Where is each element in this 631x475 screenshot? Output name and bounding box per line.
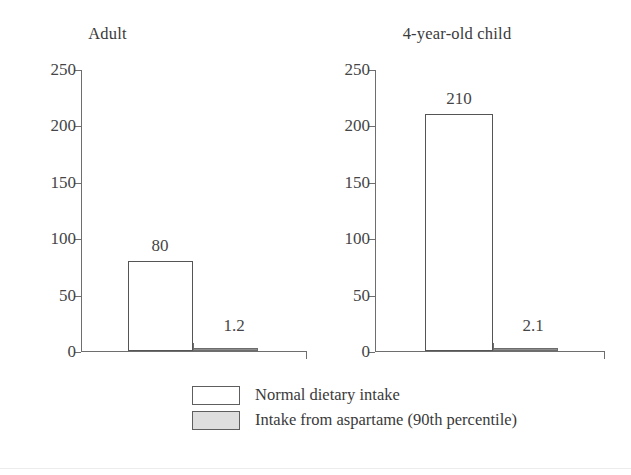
y-tick-label-200: 200 <box>345 116 371 136</box>
x-axis-line <box>81 351 307 352</box>
page-bottom-rule <box>0 468 631 469</box>
y-tick-label-50: 50 <box>353 286 370 306</box>
y-tick-label-250: 250 <box>345 60 371 80</box>
legend-label-intake-from-aspartame: Intake from aspartame (90th percentile) <box>255 410 517 430</box>
y-tick-label-50: 50 <box>59 286 76 306</box>
y-tick-label-200: 200 <box>51 116 77 136</box>
y-tick-label-150: 150 <box>345 173 371 193</box>
bar-label-adult-aspartame: 1.2 <box>223 316 244 336</box>
y-tick-label-100: 100 <box>51 229 77 249</box>
bar-adult-normal-dietary-intake[interactable] <box>128 261 193 351</box>
x-axis-end-tick <box>604 351 605 359</box>
bar-adult-intake-from-aspartame[interactable] <box>193 348 258 351</box>
panel-title-child: 4-year-old child <box>299 24 615 44</box>
x-axis-line <box>375 351 605 352</box>
x-axis-end-tick <box>306 351 307 359</box>
y-axis-line <box>81 70 82 352</box>
y-tick-label-250: 250 <box>51 60 77 80</box>
y-tick-label-0: 0 <box>362 342 371 362</box>
chart-panel-adult: Adult 250 200 150 100 <box>0 0 315 380</box>
legend-item-normal-dietary-intake[interactable]: Normal dietary intake <box>192 385 400 405</box>
bar-label-child-normal: 210 <box>446 89 472 109</box>
white-square-swatch-icon <box>192 386 240 405</box>
bar-label-child-aspartame: 2.1 <box>522 316 543 336</box>
plot-area-adult: 250 200 150 100 50 0 <box>81 70 307 352</box>
y-tick-label-100: 100 <box>345 229 371 249</box>
y-axis-line <box>375 70 376 352</box>
bar-child-intake-from-aspartame[interactable] <box>493 348 558 352</box>
chart-panel-child: 4-year-old child 250 200 150 100 <box>315 0 631 380</box>
legend-item-intake-from-aspartame[interactable]: Intake from aspartame (90th percentile) <box>192 410 517 430</box>
y-tick-label-0: 0 <box>68 342 77 362</box>
chart-figure: Adult 250 200 150 100 <box>0 0 631 475</box>
y-tick-label-150: 150 <box>51 173 77 193</box>
legend-label-normal-dietary-intake: Normal dietary intake <box>255 385 400 405</box>
bar-label-adult-normal: 80 <box>152 236 169 256</box>
plot-area-child: 250 200 150 100 50 0 <box>375 70 605 352</box>
bar-child-normal-dietary-intake[interactable] <box>425 114 493 351</box>
gray-square-swatch-icon <box>192 411 240 430</box>
panel-title-adult: Adult <box>0 24 265 44</box>
